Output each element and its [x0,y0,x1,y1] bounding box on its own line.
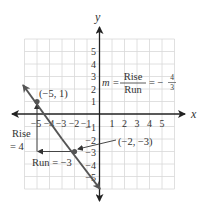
y-tick: −3 [85,147,96,158]
rise-label: Rise [12,128,31,139]
slope-num: 4 [170,73,174,82]
y-tick: 2 [91,84,96,95]
y-tick: 1 [91,96,96,107]
run-label: Run = −3 [32,157,72,168]
point1-label: (−5, 1) [39,88,68,100]
x-tick: 5 [160,118,165,129]
y-tick: −2 [85,135,96,146]
y-tick: −1 [85,122,96,133]
slope-run: Run [124,84,142,95]
y-tick: 3 [91,71,96,82]
slope-m: m = [102,77,119,88]
x-tick: 4 [147,118,152,129]
point-neg5-1 [34,99,39,104]
x-tick: −3 [56,118,67,129]
y-tick: 4 [91,59,96,70]
x-tick: 2 [122,118,127,129]
point2-label: (−2, −3) [118,136,153,148]
y-tick: −4 [85,160,96,171]
point-neg2-neg3 [72,149,77,154]
rise-value: = 4 [10,141,25,152]
y-tick: 5 [91,46,96,57]
x-tick: 3 [135,118,140,129]
x-axis-label: x [190,107,197,121]
x-tick: −2 [69,118,80,129]
x-tick: −5 [31,118,42,129]
y-axis-label: y [94,10,101,24]
x-tick: 1 [110,118,115,129]
slope-rise: Rise [124,71,143,82]
point-pointer [78,140,116,149]
coordinate-plane: x y −5 −4 −3 −2 −1 1 2 3 4 5 5 4 3 2 1 −… [0,0,211,215]
slope-equals: = − [149,77,164,88]
slope-den: 3 [170,83,174,92]
